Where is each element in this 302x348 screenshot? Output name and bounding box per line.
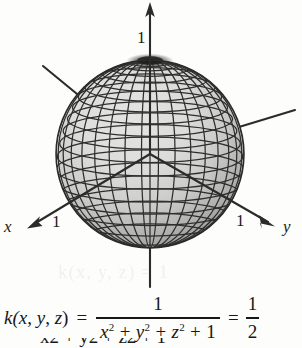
- equation-left-hand-side: k(x, y, z): [4, 307, 68, 329]
- function-name-k: k(: [4, 307, 19, 328]
- sphere-figure-svg: [0, 0, 302, 292]
- equals-sign-2: =: [228, 307, 239, 329]
- lhs-comma-1: ,: [27, 307, 37, 328]
- axis-label-x: x: [4, 218, 12, 235]
- sphere-figure: x y 1 1 1 k(x, y, z) = 1: [0, 0, 302, 292]
- lhs-comma-2: ,: [45, 307, 55, 328]
- lhs-variable-y: y: [37, 307, 45, 328]
- fraction-numerator: 1: [149, 293, 167, 315]
- next-line-fragment: x2 + y2 + z2 + 1: [40, 338, 166, 348]
- lhs-variable-x: x: [19, 307, 27, 328]
- denominator-exponent-y: 2: [145, 320, 151, 332]
- axis-positive-y-arrowhead: [259, 215, 275, 229]
- result-fraction: 1 2: [246, 293, 260, 342]
- result-numerator: 1: [246, 293, 260, 315]
- axis-positive-x-arrowhead: [27, 216, 43, 228]
- axis-label-y: y: [283, 218, 291, 235]
- figure-page: x y 1 1 1 k(x, y, z) = 1 k(x, y, z) = 1 …: [0, 0, 302, 348]
- axis-tick-x: 1: [52, 213, 61, 230]
- main-fraction: 1 x2 + y2 + z2 + 1: [96, 293, 220, 342]
- axis-tick-z: 1: [137, 29, 146, 46]
- scan-bleed-artifact: k(x, y, z) = 1: [58, 261, 238, 285]
- lhs-close-paren: ): [62, 307, 68, 328]
- lhs-variable-z: z: [55, 307, 62, 328]
- denominator-exponent-z: 2: [179, 320, 185, 332]
- fraction-bar: [96, 317, 220, 318]
- axis-tick-y: 1: [236, 212, 245, 229]
- result-fraction-bar: [246, 317, 260, 318]
- next-line-clipped: x2 + y2 + z2 + 1: [0, 338, 302, 348]
- denominator-exponent-x: 2: [109, 320, 115, 332]
- equals-sign-1: =: [76, 307, 87, 329]
